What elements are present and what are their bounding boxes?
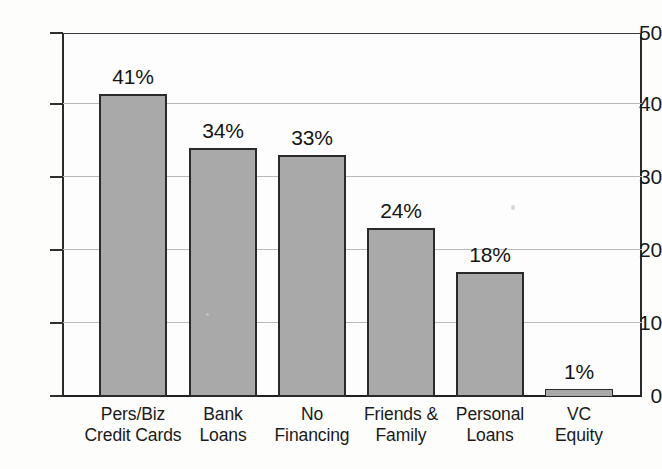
xtick-label-line2: Loans bbox=[436, 425, 544, 446]
xtick-label-vc-equity: VC Equity bbox=[531, 404, 627, 446]
value-label-vc-equity: 1% bbox=[545, 361, 613, 382]
xtick-label-line1: Friends & bbox=[364, 404, 438, 424]
xtick-label-line1: Bank bbox=[203, 404, 243, 424]
ytick-label-50: 50 bbox=[618, 22, 662, 43]
bar-pers-biz-credit-cards[interactable] bbox=[99, 94, 167, 397]
xtick-label-line1: VC bbox=[567, 404, 591, 424]
ytick-mark-20 bbox=[50, 249, 63, 251]
bar-personal-loans[interactable] bbox=[456, 272, 524, 397]
value-label-personal-loans: 18% bbox=[456, 244, 524, 265]
xtick-label-line1: Pers/Biz bbox=[101, 404, 165, 424]
value-label-pers-biz-credit-cards: 41% bbox=[99, 66, 167, 87]
ytick-label-10: 10 bbox=[618, 312, 662, 333]
bar-friends-family[interactable] bbox=[367, 228, 435, 397]
scan-speck bbox=[206, 313, 209, 316]
value-label-no-financing: 33% bbox=[278, 127, 346, 148]
bar-vc-equity[interactable] bbox=[545, 389, 613, 397]
ytick-label-40: 40 bbox=[618, 93, 662, 114]
scan-speck bbox=[511, 205, 515, 210]
ytick-mark-40 bbox=[50, 103, 63, 105]
bar-no-financing[interactable] bbox=[278, 155, 346, 397]
ytick-mark-10 bbox=[50, 322, 63, 324]
ytick-label-30: 30 bbox=[618, 166, 662, 187]
value-label-bank-loans: 34% bbox=[189, 120, 257, 141]
ytick-mark-0 bbox=[50, 395, 63, 397]
ytick-mark-50 bbox=[50, 32, 63, 34]
ytick-mark-30 bbox=[50, 176, 63, 178]
ytick-label-20: 20 bbox=[618, 239, 662, 260]
bar-bank-loans[interactable] bbox=[189, 148, 257, 397]
xtick-label-line1: Personal bbox=[456, 404, 524, 424]
xtick-label-line2: Equity bbox=[531, 425, 627, 446]
ytick-label-0: 0 bbox=[618, 385, 662, 406]
value-label-friends-family: 24% bbox=[367, 200, 435, 221]
bar-chart: 50 40 30 20 10 0 41% 34% 33% 24% 18% 1% … bbox=[0, 0, 662, 469]
xtick-label-line1: No bbox=[301, 404, 323, 424]
xtick-label-personal-loans: Personal Loans bbox=[436, 404, 544, 446]
